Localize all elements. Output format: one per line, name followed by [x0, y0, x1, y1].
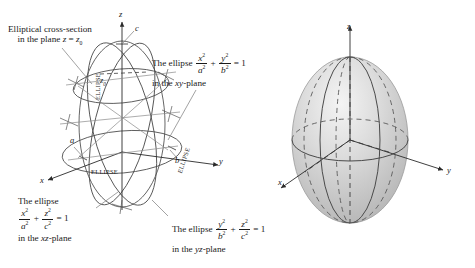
cross-section-line2: in the plane z = z0 [18, 34, 83, 44]
yz-plane-annotation: The ellipse y2b2 + z2c2 = 1 in the yz-pl… [172, 218, 265, 254]
a-intercept-label: a [70, 136, 74, 146]
c-intercept-label: c [135, 24, 139, 34]
ellipse-trace-label-horizontal: ELLIPSE [91, 168, 118, 175]
xz-plane-annotation: The ellipse x2a2 + z2c2 = 1 in the xz-pl… [18, 196, 72, 243]
y-axis [122, 152, 218, 165]
ellipse-trace-label-vertical: ELLIPSE [94, 73, 101, 100]
left-z-axis-label: z [119, 10, 122, 20]
xz-lead-line: The ellipse [18, 196, 72, 206]
xy-plane-line: in the xy-plane [152, 78, 246, 88]
leader-xy [168, 90, 196, 140]
xy-plane-annotation: The ellipse x2a2 + y2b2 = 1 in the xy-pl… [152, 52, 246, 88]
xy-equation-line: The ellipse x2a2 + y2b2 = 1 [152, 52, 246, 76]
z0-level-line [100, 72, 148, 74]
xz-equation-line: x2a2 + z2c2 = 1 [18, 207, 72, 231]
yz-equation-line: The ellipse y2b2 + z2c2 = 1 [172, 218, 265, 242]
right-x-axis-label: x [278, 178, 282, 188]
x-axis [48, 152, 122, 180]
leader-yz [152, 200, 168, 216]
left-y-axis-label: y [219, 157, 223, 167]
xz-plane-line: in the xz-plane [18, 233, 72, 243]
cross-section-line1: Elliptical cross-section [8, 24, 92, 34]
ellipsoid-figure: Elliptical cross-section in the plane z … [0, 0, 475, 268]
right-y-axis-label: y [447, 166, 451, 176]
right-z-axis-label: z [347, 22, 350, 32]
cross-section-annotation: Elliptical cross-section in the plane z … [8, 24, 92, 47]
right-solid-svg [275, 0, 475, 268]
yz-plane-line: in the yz-plane [172, 244, 265, 254]
left-x-axis-label: x [40, 176, 44, 186]
